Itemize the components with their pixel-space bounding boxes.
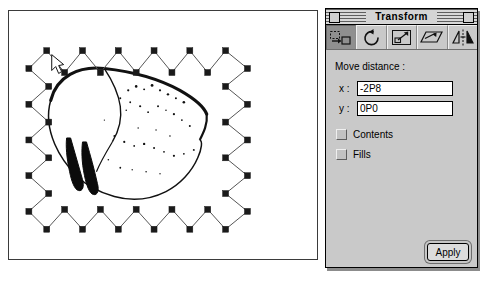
- contents-checkbox-label: Contents: [353, 129, 393, 140]
- mirror-tool-button[interactable]: [448, 25, 477, 49]
- contents-checkbox-row[interactable]: Contents: [336, 129, 393, 140]
- move-distance-label: Move distance :: [335, 61, 405, 72]
- transform-toolbar[interactable]: [326, 25, 477, 50]
- fills-checkbox-label: Fills: [353, 149, 371, 160]
- artwork-svg: [9, 11, 317, 259]
- scale-tool-button[interactable]: [387, 25, 417, 49]
- drawing-canvas[interactable]: [8, 10, 318, 260]
- contents-checkbox[interactable]: [336, 129, 347, 140]
- palette-titlebar[interactable]: Transform: [326, 9, 477, 25]
- scale-icon: [391, 29, 413, 46]
- x-field-label: x :: [339, 83, 357, 94]
- transform-palette[interactable]: Transform: [325, 8, 478, 268]
- close-box-icon[interactable]: [329, 12, 340, 23]
- selection-path: [29, 51, 248, 230]
- path-handles: [26, 48, 251, 233]
- y-field-label: y :: [339, 103, 357, 114]
- y-field-row: y :: [339, 101, 453, 116]
- palette-title: Transform: [326, 9, 477, 24]
- rotate-tool-button[interactable]: [356, 25, 386, 49]
- fills-checkbox[interactable]: [336, 149, 347, 160]
- palette-title-text: Transform: [366, 10, 437, 23]
- sketch-drawing: [49, 68, 207, 199]
- move-icon: [329, 30, 353, 46]
- zoom-box-icon[interactable]: [463, 12, 474, 23]
- apply-button[interactable]: Apply: [427, 243, 469, 261]
- move-tool-button[interactable]: [326, 25, 356, 49]
- y-distance-input[interactable]: [357, 101, 453, 116]
- fills-checkbox-row[interactable]: Fills: [336, 149, 371, 160]
- skew-tool-button[interactable]: [417, 25, 447, 49]
- transform-panel-body: Move distance : x : y : Contents Fills A…: [326, 50, 477, 268]
- skew-icon: [420, 29, 444, 46]
- x-field-row: x :: [339, 81, 453, 96]
- x-distance-input[interactable]: [357, 81, 453, 96]
- mirror-icon: [450, 29, 476, 46]
- rotate-icon: [361, 29, 383, 46]
